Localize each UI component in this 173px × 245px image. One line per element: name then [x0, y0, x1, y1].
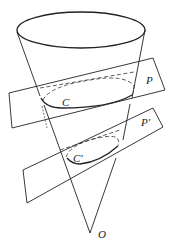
label-p: P	[145, 74, 153, 86]
plane-p-prime-hidden-line	[60, 130, 120, 150]
cone-diagram: P P′ C C′ O	[0, 0, 173, 245]
cone-left-edge-upper	[17, 32, 40, 96]
label-c: C	[62, 96, 70, 108]
section-c-front	[41, 95, 132, 108]
label-o: O	[98, 228, 106, 240]
label-p-prime: P′	[140, 116, 151, 128]
cone-top-rim	[17, 12, 145, 48]
cone-left-edge-lower	[44, 105, 90, 233]
cone-left-edge-hidden	[42, 106, 47, 128]
cone-right-edge-lower	[90, 158, 116, 233]
label-c-prime: C′	[73, 152, 83, 164]
